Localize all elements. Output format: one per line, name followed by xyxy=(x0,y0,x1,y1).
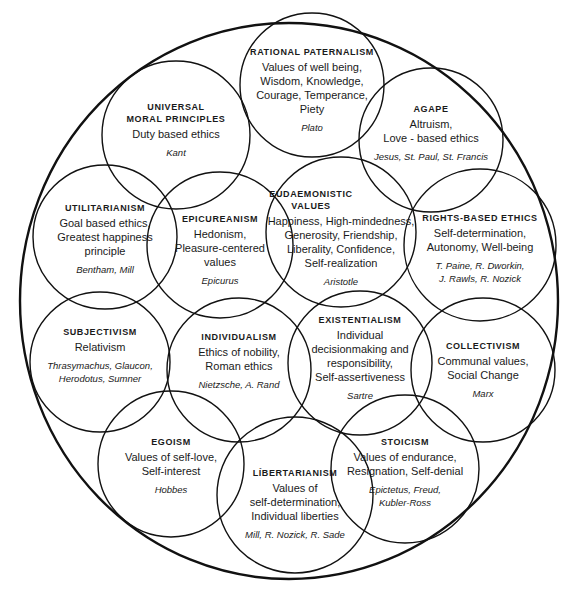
subjectivism-title: SUBJECTIVISM xyxy=(47,326,153,338)
universal-moral-principles-label: UNIVERSALMORAL PRINCIPLESDuty based ethi… xyxy=(127,101,226,159)
agape-people: Jesus, St. Paul, St. Francis xyxy=(374,150,488,163)
rights-based-ethics-desc-line: Self-determination, xyxy=(422,226,537,240)
subjectivism-desc-line: Relativism xyxy=(47,340,153,354)
rights-based-ethics-desc: Self-determination,Autonomy, Well-being xyxy=(422,226,537,254)
rational-paternalism-desc-line: Piety xyxy=(250,102,374,116)
eudaemonistic-values-people: Aristotle xyxy=(268,275,415,288)
egoism-desc-line: Values of self-love, xyxy=(125,450,217,464)
utilitarianism-label: UTILITARIANISMGoal based ethics,Greatest… xyxy=(57,202,152,276)
existentialism-people: Sartre xyxy=(311,389,408,402)
agape-label: AGAPEAltruism,Love - based ethicsJesus, … xyxy=(374,103,488,163)
existentialism-people-line: Sartre xyxy=(311,389,408,402)
epicureanism-desc-line: Pleasure-centered xyxy=(175,241,265,255)
egoism-title: EGOISM xyxy=(125,436,217,448)
stoicism-people: Epictetus, Freud,Kubler-Ross xyxy=(347,483,463,509)
eudaemonistic-values-desc-line: Happiness, High-mindedness, xyxy=(268,214,415,228)
utilitarianism-desc-line: principle xyxy=(57,244,152,258)
epicureanism-people-line: Epicurus xyxy=(175,274,265,287)
rights-based-ethics-title: RIGHTS-BASED ETHICS xyxy=(422,212,537,224)
stoicism-people-line: Epictetus, Freud, xyxy=(347,483,463,496)
stoicism-desc-line: Resignation, Self-denial xyxy=(347,464,463,478)
eudaemonistic-values-desc: Happiness, High-mindedness,Generosity, F… xyxy=(268,214,415,270)
eudaemonistic-values-title-line: VALUES xyxy=(208,200,415,212)
libertarianism-people: Mill, R. Nozick, R. Sade xyxy=(245,528,345,541)
utilitarianism-desc: Goal based ethics,Greatest happinessprin… xyxy=(57,216,152,258)
eudaemonistic-values-desc-line: Generosity, Friendship, xyxy=(268,228,415,242)
collectivism-title: COLLECTIVISM xyxy=(437,340,528,352)
epicureanism-label: EPICUREANISMHedonism,Pleasure-centeredva… xyxy=(175,213,265,287)
utilitarianism-people-line: Bentham, Mill xyxy=(57,263,152,276)
universal-moral-principles-title-line: UNIVERSAL xyxy=(127,101,226,113)
subjectivism-title-line: SUBJECTIVISM xyxy=(47,326,153,338)
libertarianism-desc: Values ofself-determination,Individual l… xyxy=(245,481,345,523)
collectivism-people-line: Marx xyxy=(437,387,528,400)
eudaemonistic-values-title: EUDAEMONISTICVALUES xyxy=(208,188,415,212)
eudaemonistic-values-desc-line: Liberality, Confidence, xyxy=(268,242,415,256)
rights-based-ethics-people: T. Paine, R. Dworkin,J. Rawls, R. Nozick xyxy=(422,259,537,285)
utilitarianism-desc-line: Greatest happiness xyxy=(57,230,152,244)
eudaemonistic-values-label: EUDAEMONISTICVALUESHappiness, High-minde… xyxy=(268,188,415,288)
epicureanism-title: EPICUREANISM xyxy=(175,213,265,225)
existentialism-desc: Individualdecisionmaking andresponsibili… xyxy=(311,328,408,384)
agape-people-line: Jesus, St. Paul, St. Francis xyxy=(374,150,488,163)
rights-based-ethics-label: RIGHTS-BASED ETHICSSelf-determination,Au… xyxy=(422,212,537,285)
epicureanism-people: Epicurus xyxy=(175,274,265,287)
utilitarianism-people: Bentham, Mill xyxy=(57,263,152,276)
rational-paternalism-desc: Values of well being,Wisdom, Knowledge,C… xyxy=(250,60,374,116)
libertarianism-people-line: Mill, R. Nozick, R. Sade xyxy=(245,528,345,541)
stoicism-title-line: STOICISM xyxy=(347,436,463,448)
eudaemonistic-values-title-line: EUDAEMONISTIC xyxy=(208,188,415,200)
rational-paternalism-title-line: RATIONAL PATERNALISM xyxy=(250,46,374,58)
rational-paternalism-people: Plato xyxy=(250,121,374,134)
existentialism-desc-line: Individual xyxy=(311,328,408,342)
rational-paternalism-label: RATIONAL PATERNALISMValues of well being… xyxy=(250,46,374,134)
rights-based-ethics-people-line: T. Paine, R. Dworkin, xyxy=(422,259,537,272)
egoism-label: EGOISMValues of self-love,Self-interestH… xyxy=(125,436,217,496)
utilitarianism-title: UTILITARIANISM xyxy=(57,202,152,214)
universal-moral-principles-title: UNIVERSALMORAL PRINCIPLES xyxy=(127,101,226,125)
agape-desc-line: Love - based ethics xyxy=(374,131,488,145)
subjectivism-people: Thrasymachus, Glaucon,Herodotus, Sumner xyxy=(47,359,153,385)
libertarianism-title: LÍBERTARIANISM xyxy=(245,467,345,479)
epicureanism-desc-line: values xyxy=(175,255,265,269)
individualism-people: Nietzsche, A. Rand xyxy=(198,378,280,391)
existentialism-label: EXISTENTIALISMIndividualdecisionmaking a… xyxy=(311,314,408,402)
collectivism-desc-line: Social Change xyxy=(437,368,528,382)
existentialism-desc-line: decisionmaking and xyxy=(311,342,408,356)
agape-desc-line: Altruism, xyxy=(374,117,488,131)
collectivism-title-line: COLLECTIVISM xyxy=(437,340,528,352)
stoicism-desc: Values of endurance,Resignation, Self-de… xyxy=(347,450,463,478)
libertarianism-desc-line: Values of xyxy=(245,481,345,495)
libertarianism-desc-line: Individual liberties xyxy=(245,509,345,523)
universal-moral-principles-desc: Duty based ethics xyxy=(127,127,226,141)
stoicism-label: STOICISMValues of endurance,Resignation,… xyxy=(347,436,463,509)
epicureanism-title-line: EPICUREANISM xyxy=(175,213,265,225)
agape-title-line: AGAPE xyxy=(374,103,488,115)
eudaemonistic-values-people-line: Aristotle xyxy=(268,275,415,288)
agape-desc: Altruism,Love - based ethics xyxy=(374,117,488,145)
subjectivism-label: SUBJECTIVISMRelativismThrasymachus, Glau… xyxy=(47,326,153,385)
egoism-people: Hobbes xyxy=(125,483,217,496)
libertarianism-title-line: LÍBERTARIANISM xyxy=(245,467,345,479)
individualism-label: INDIVIDUALISMEthics of nobility,Roman et… xyxy=(198,331,280,391)
rights-based-ethics-people-line: J. Rawls, R. Nozick xyxy=(422,272,537,285)
rights-based-ethics-desc-line: Autonomy, Well-being xyxy=(422,240,537,254)
stoicism-desc-line: Values of endurance, xyxy=(347,450,463,464)
individualism-title: INDIVIDUALISM xyxy=(198,331,280,343)
epicureanism-desc: Hedonism,Pleasure-centeredvalues xyxy=(175,227,265,269)
subjectivism-desc: Relativism xyxy=(47,340,153,354)
utilitarianism-desc-line: Goal based ethics, xyxy=(57,216,152,230)
stoicism-title: STOICISM xyxy=(347,436,463,448)
egoism-people-line: Hobbes xyxy=(125,483,217,496)
agape-title: AGAPE xyxy=(374,103,488,115)
universal-moral-principles-desc-line: Duty based ethics xyxy=(127,127,226,141)
individualism-desc-line: Ethics of nobility, xyxy=(198,345,280,359)
existentialism-title: EXISTENTIALISM xyxy=(311,314,408,326)
egoism-desc: Values of self-love,Self-interest xyxy=(125,450,217,478)
collectivism-people: Marx xyxy=(437,387,528,400)
rational-paternalism-desc-line: Courage, Temperance, xyxy=(250,88,374,102)
libertarianism-desc-line: self-determination, xyxy=(245,495,345,509)
libertarianism-label: LÍBERTARIANISMValues ofself-determinatio… xyxy=(245,467,345,541)
individualism-desc-line: Roman ethics xyxy=(198,359,280,373)
existentialism-title-line: EXISTENTIALISM xyxy=(311,314,408,326)
